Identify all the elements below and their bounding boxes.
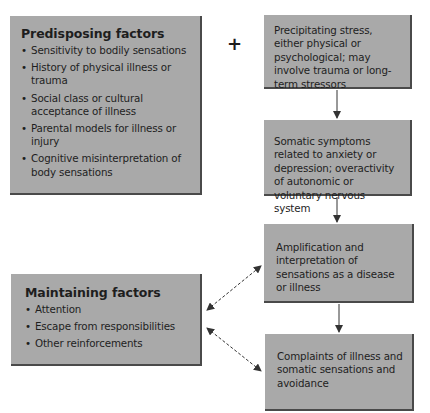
dashed-bidirectional-arrow-upper: [207, 266, 261, 310]
dashed-bidirectional-arrow-lower: [207, 328, 261, 371]
connector-arrows: [0, 0, 430, 413]
